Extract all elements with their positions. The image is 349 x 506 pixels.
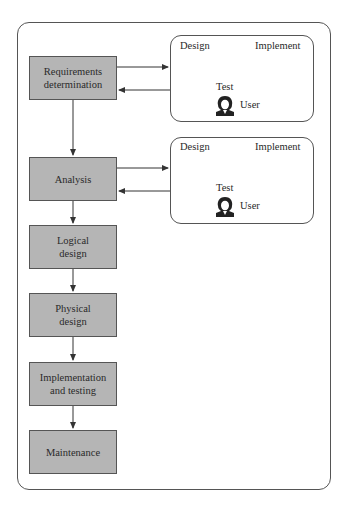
phase-label: and testing	[40, 384, 106, 397]
phase-logical-design: Logicaldesign	[29, 225, 117, 269]
phase-label: Analysis	[55, 173, 92, 186]
loop-test-label: Test	[216, 81, 233, 92]
phase-analysis: Analysis	[29, 157, 117, 201]
phase-label: Maintenance	[46, 446, 100, 459]
phase-label: Requirements	[44, 65, 102, 78]
phase-physical-design: Physicaldesign	[29, 293, 117, 337]
user-icon	[214, 196, 236, 218]
phase-label: Logical	[57, 234, 89, 247]
phase-maintenance: Maintenance	[29, 430, 117, 474]
loop-user-label: User	[240, 200, 260, 211]
loop-implement-label: Implement	[255, 40, 301, 51]
loop-design-label: Design	[180, 40, 210, 51]
phase-label: design	[55, 315, 91, 328]
loop-implement-label: Implement	[255, 141, 301, 152]
loop-user-label: User	[240, 99, 260, 110]
loop-design-label: Design	[180, 141, 210, 152]
phase-requirements-determination: Requirementsdetermination	[29, 56, 117, 100]
user-icon	[214, 95, 236, 117]
loop-test-label: Test	[216, 182, 233, 193]
phase-implementation-testing: Implementationand testing	[29, 362, 117, 406]
phase-label: determination	[44, 78, 102, 91]
phase-label: design	[57, 247, 89, 260]
phase-label: Physical	[55, 302, 91, 315]
phase-label: Implementation	[40, 371, 106, 384]
